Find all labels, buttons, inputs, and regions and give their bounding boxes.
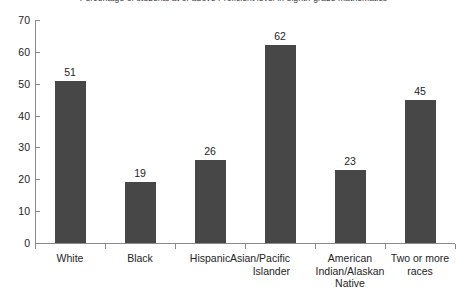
y-axis-tick xyxy=(36,52,40,53)
x-axis-category-label-line: races xyxy=(377,265,463,278)
x-axis-category-label-line: Two or more xyxy=(377,252,463,265)
y-axis-tick-label: 40 xyxy=(4,111,30,122)
y-axis-tick-label: 0 xyxy=(4,238,30,249)
bar-value-label: 51 xyxy=(45,67,95,78)
bar-value-label: 62 xyxy=(255,31,305,42)
bar[interactable] xyxy=(405,100,436,243)
y-axis-tick-label: 50 xyxy=(4,79,30,90)
y-axis-tick xyxy=(36,243,40,244)
bar[interactable] xyxy=(125,182,156,243)
bar[interactable] xyxy=(265,45,296,243)
y-axis-tick-label-wrap: 40 xyxy=(0,116,30,117)
bar[interactable] xyxy=(335,170,366,243)
y-axis-tick xyxy=(36,116,40,117)
y-axis-tick-label: 10 xyxy=(4,206,30,217)
x-axis-category-label: Asian/PacificIslander xyxy=(204,252,290,277)
bar[interactable] xyxy=(195,160,226,243)
bar-value-label: 45 xyxy=(395,86,445,97)
x-axis-tick xyxy=(315,244,316,249)
bar-value-label: 19 xyxy=(115,168,165,179)
x-axis-tick xyxy=(385,244,386,249)
y-axis-tick xyxy=(36,84,40,85)
x-axis-tick xyxy=(175,244,176,249)
y-axis-tick-label: 70 xyxy=(4,15,30,26)
y-axis-tick-label: 30 xyxy=(4,142,30,153)
y-axis-tick-label-wrap: 60 xyxy=(0,52,30,53)
bar-value-label: 23 xyxy=(325,156,375,167)
x-axis-tick xyxy=(35,244,36,249)
x-axis-category-label-line: Native xyxy=(307,277,393,290)
y-axis-tick-label-wrap: 0 xyxy=(0,243,30,244)
y-axis-tick xyxy=(36,147,40,148)
y-axis-tick xyxy=(36,179,40,180)
y-axis-tick xyxy=(36,20,40,21)
bar-chart-figure: Percentage of students at or above Profi… xyxy=(0,0,467,292)
x-axis-category-label-line: Islander xyxy=(204,265,290,278)
x-axis-tick xyxy=(245,244,246,249)
x-axis-category-label-line: Asian/Pacific xyxy=(204,252,290,265)
plot-area: 010203040506070 51White19Black26Hispanic… xyxy=(0,0,467,292)
y-axis-tick-label-wrap: 50 xyxy=(0,84,30,85)
y-axis-tick xyxy=(36,211,40,212)
y-axis-tick-label: 20 xyxy=(4,174,30,185)
y-axis-tick-label-wrap: 70 xyxy=(0,20,30,21)
y-axis-tick-label-wrap: 20 xyxy=(0,179,30,180)
y-axis-tick-label-wrap: 10 xyxy=(0,211,30,212)
bar[interactable] xyxy=(55,81,86,243)
x-axis-category-label: Two or moreraces xyxy=(377,252,463,277)
x-axis-tick xyxy=(105,244,106,249)
y-axis-tick-label-wrap: 30 xyxy=(0,147,30,148)
bar-value-label: 26 xyxy=(185,146,235,157)
y-axis-tick-label: 60 xyxy=(4,47,30,58)
x-axis-tick xyxy=(455,244,456,249)
